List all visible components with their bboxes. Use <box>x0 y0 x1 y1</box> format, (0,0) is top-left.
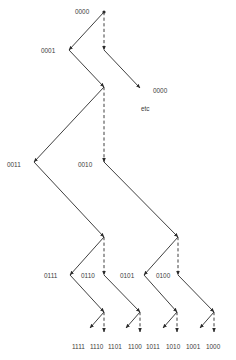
edges-group <box>34 12 214 312</box>
leaf-label-1110: 1110 <box>90 343 104 350</box>
solid-edge-arrow <box>69 50 104 87</box>
side-branch-label: 0000 <box>153 87 168 94</box>
node-label-0101: 0101 <box>120 272 135 279</box>
node-label-0001: 0001 <box>41 47 56 54</box>
solid-edge-arrow <box>104 275 140 312</box>
root-node-dot <box>102 10 105 13</box>
node-label-0111: 0111 <box>44 272 58 279</box>
leaf-label-1011: 1011 <box>146 343 160 350</box>
node-label-0100: 0100 <box>156 272 171 279</box>
binary-tree-diagram: 00000001001100100111011001010100 1111111… <box>0 0 236 360</box>
leaf-arrow-1111 <box>90 312 104 328</box>
solid-edge-arrow <box>34 162 104 237</box>
solid-edge-arrow <box>70 237 104 275</box>
nodes-group <box>102 10 105 13</box>
leaf-label-1101: 1101 <box>108 343 122 350</box>
leaf-arrow-1001 <box>200 312 214 328</box>
solid-edge-arrow <box>144 275 177 312</box>
leaf-label-1100: 1100 <box>128 343 142 350</box>
solid-edge-arrow <box>144 237 178 275</box>
solid-edge-arrow <box>104 50 140 88</box>
leaf-arrow-1011 <box>163 312 177 328</box>
node-label-0011: 0011 <box>7 161 21 168</box>
solid-edge-arrow <box>69 12 104 50</box>
node-label-0110: 0110 <box>81 272 95 279</box>
leaf-label-1001: 1001 <box>186 343 201 350</box>
leaf-label-1000: 1000 <box>206 343 221 350</box>
etc-note: etc <box>141 105 150 112</box>
leaf-label-1010: 1010 <box>166 343 181 350</box>
solid-edge-arrow <box>34 87 104 162</box>
tree-svg: 00000001001100100111011001010100 1111111… <box>0 0 236 360</box>
leaf-label-1111: 1111 <box>72 343 85 350</box>
side-branch-group: 0000 etc <box>141 87 168 112</box>
node-label-0010: 0010 <box>78 161 93 168</box>
solid-edge-arrow <box>178 275 214 312</box>
solid-edge-arrow <box>104 162 178 237</box>
leaves-group: 11111110110111001011101010011000 <box>72 312 221 350</box>
node-label-0000: 0000 <box>75 8 90 15</box>
labels-group: 00000001001100100111011001010100 <box>7 8 171 279</box>
leaf-arrow-1101 <box>126 312 140 328</box>
solid-edge-arrow <box>70 275 104 312</box>
